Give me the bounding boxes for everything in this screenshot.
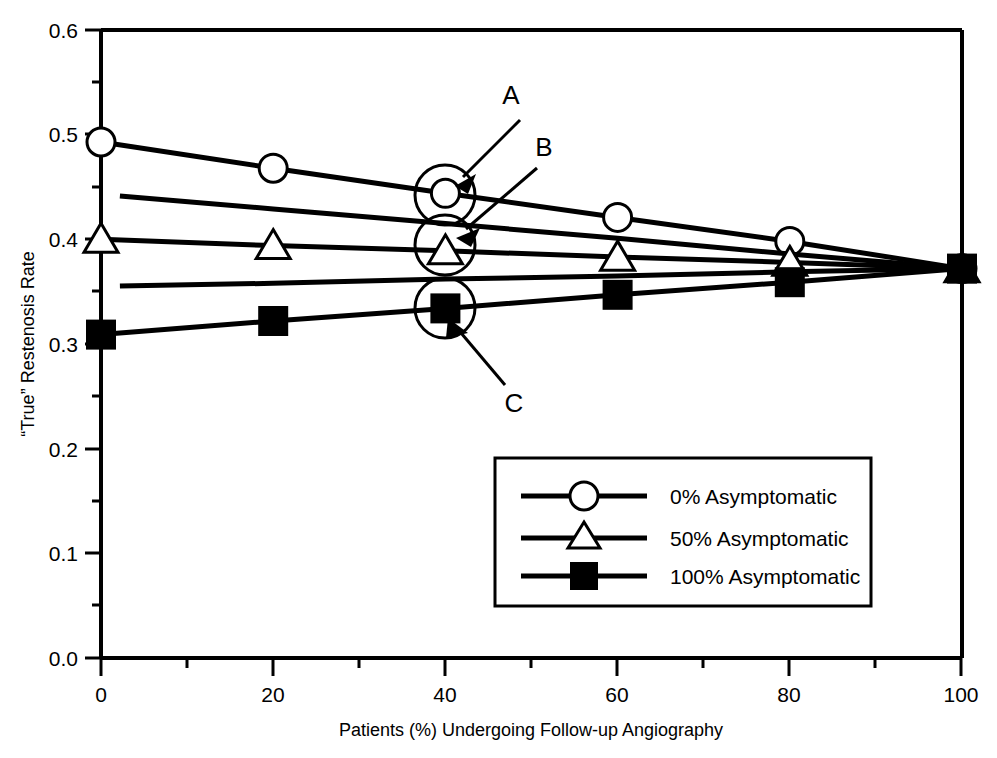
restenosis-rate-chart: 0.6 0.5 0.4 0.3 0.2 0.1 0.0 “True” Reste…	[0, 0, 997, 758]
x-tick-label-60: 60	[605, 683, 628, 706]
y-tick-label-0.6: 0.6	[49, 19, 78, 42]
y-axis-title: “True” Restenosis Rate	[18, 251, 38, 436]
marker-filled-square	[603, 280, 633, 310]
y-tick-label-0.3: 0.3	[49, 333, 78, 356]
annotation-a-label: A	[502, 80, 520, 110]
x-tick-label-100: 100	[943, 683, 978, 706]
y-tick-label-0.4: 0.4	[49, 228, 79, 251]
marker-filled-square	[947, 254, 977, 284]
marker-open-circle	[431, 179, 459, 207]
marker-filled-square	[86, 320, 116, 350]
marker-open-circle	[87, 128, 115, 156]
marker-filled-square	[258, 306, 288, 336]
x-axis-title: Patients (%) Undergoing Follow-up Angiog…	[339, 720, 723, 740]
legend-item-100-asymptomatic[interactable]: 100% Asymptomatic	[521, 562, 860, 590]
y-tick-label-0.1: 0.1	[49, 542, 78, 565]
legend-label-2: 100% Asymptomatic	[670, 565, 860, 588]
x-tick-label-20: 20	[261, 683, 284, 706]
annotation-c-label: C	[505, 388, 524, 418]
legend-label-0: 0% Asymptomatic	[670, 485, 837, 508]
x-tick-label-80: 80	[777, 683, 800, 706]
marker-open-circle	[259, 154, 287, 182]
filled-square-icon	[570, 562, 598, 590]
x-tick-label-0: 0	[95, 683, 107, 706]
x-tick-label-40: 40	[433, 683, 456, 706]
legend-label-1: 50% Asymptomatic	[670, 527, 849, 550]
legend: 0% Asymptomatic 50% Asymptomatic 100% As…	[495, 458, 871, 606]
annotation-b-label: B	[535, 132, 552, 162]
marker-filled-square	[775, 267, 805, 297]
y-tick-label-0.2: 0.2	[49, 438, 78, 461]
y-tick-label-0.5: 0.5	[49, 123, 78, 146]
y-tick-label-0.0: 0.0	[49, 647, 78, 670]
marker-open-circle	[604, 203, 632, 231]
marker-filled-square	[430, 293, 460, 323]
open-circle-icon	[570, 482, 598, 510]
